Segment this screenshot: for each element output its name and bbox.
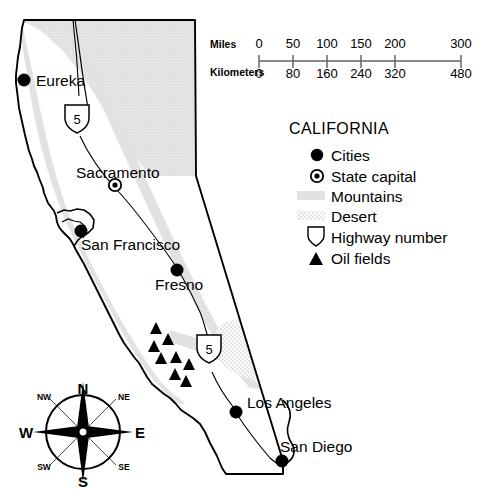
scale-miles-tick: 150	[350, 36, 372, 51]
scale-miles-label: Miles	[210, 38, 236, 50]
highway-shield-number: 5	[205, 342, 212, 357]
scale-km-tick: 480	[450, 66, 472, 81]
scale-miles-tick: 0	[255, 36, 262, 51]
compass-rose: N S E W NW NE SW SE	[19, 380, 145, 490]
legend-item-label: Cities	[331, 147, 370, 164]
scale-miles-tick: 50	[286, 36, 300, 51]
city-label: San Francisco	[81, 236, 180, 253]
map-canvas: 5 5 Eureka Sacramento San Francisco Fres…	[0, 0, 483, 502]
filled-triangle-icon	[309, 252, 323, 265]
scale-miles-tick: 300	[450, 36, 472, 51]
compass-label-south: S	[78, 473, 88, 490]
legend-item-desert: Desert	[297, 208, 377, 225]
compass-label-east: E	[135, 424, 145, 441]
compass-label-west: W	[19, 424, 34, 441]
legend-item-label: Mountains	[331, 188, 403, 205]
scale-km-tick: 0	[255, 66, 262, 81]
scale-bar: Miles Kilometers 0 50 100 150 200 300 0 …	[210, 36, 472, 81]
legend-title: CALIFORNIA	[289, 120, 389, 137]
highway-shield-number: 5	[73, 112, 80, 127]
legend-item-state-capital: State capital	[311, 168, 417, 185]
legend-item-label: Highway number	[331, 229, 447, 246]
compass-point-east	[83, 426, 133, 438]
filled-circle-icon	[311, 149, 323, 161]
scale-km-tick: 320	[384, 66, 406, 81]
legend-item-label: Desert	[331, 208, 377, 225]
california-map: 5 5 Eureka Sacramento San Francisco Fres…	[0, 0, 483, 502]
city-label: Los Angeles	[247, 394, 332, 411]
city-label: Fresno	[155, 276, 203, 293]
scale-miles-tick: 100	[316, 36, 338, 51]
legend-item-label: Oil fields	[331, 250, 391, 267]
compass-center-hub	[79, 428, 87, 436]
compass-point-west	[33, 426, 83, 438]
legend-item-cities: Cities	[311, 147, 370, 164]
compass-label-northeast: NE	[118, 392, 130, 402]
circle-dot-icon-inner	[112, 182, 117, 187]
compass-label-southwest: SW	[37, 462, 52, 472]
city-marker-san-diego[interactable]: San Diego	[276, 438, 353, 468]
city-label: San Diego	[280, 438, 352, 455]
gray-swatch-icon	[297, 191, 325, 200]
scale-km-tick: 160	[316, 66, 338, 81]
filled-circle-icon	[230, 406, 243, 419]
scale-miles-tick: 200	[384, 36, 406, 51]
scale-km-tick: 80	[286, 66, 300, 81]
filled-circle-icon	[276, 455, 289, 468]
city-label: Eureka	[36, 72, 85, 89]
filled-circle-icon	[18, 74, 31, 87]
compass-label-northwest: NW	[37, 392, 52, 402]
filled-circle-icon	[171, 264, 184, 277]
legend-item-highway-number: Highway number	[308, 227, 447, 246]
legend-item-oil-fields: Oil fields	[309, 250, 391, 267]
scale-km-tick: 240	[350, 66, 372, 81]
city-label: Sacramento	[76, 164, 160, 181]
stipple-swatch-icon	[297, 211, 325, 220]
circle-dot-icon-inner	[314, 173, 319, 178]
compass-label-southeast: SE	[118, 462, 130, 472]
map-legend: CALIFORNIA Cities State capital Mountain…	[289, 120, 447, 267]
compass-label-north: N	[78, 380, 89, 397]
legend-item-label: State capital	[331, 168, 416, 185]
highway-shield-icon	[308, 227, 324, 246]
legend-item-mountains: Mountains	[297, 188, 403, 205]
